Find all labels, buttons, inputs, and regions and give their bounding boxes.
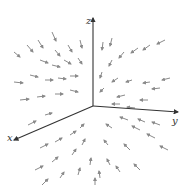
field-arrow <box>40 60 48 63</box>
field-arrow <box>120 117 128 120</box>
field-arrow <box>70 131 76 135</box>
field-arrow <box>124 144 130 150</box>
field-arrow <box>58 78 66 79</box>
field-arrow <box>119 52 124 58</box>
field-arrow <box>132 126 140 130</box>
field-arrow <box>82 139 85 145</box>
field-arrow <box>100 88 104 92</box>
field-arrow <box>127 107 135 108</box>
field-arrow <box>68 45 72 52</box>
vector-field-diagram: zyx <box>0 0 192 190</box>
field-arrow <box>143 82 150 83</box>
field-arrow <box>126 80 132 82</box>
field-arrow <box>14 82 23 83</box>
field-arrow <box>55 50 60 56</box>
z-axis-label: z <box>85 15 92 26</box>
field-arrow <box>106 124 112 128</box>
field-arrow <box>99 171 100 178</box>
field-arrow <box>37 96 45 97</box>
field-arrow <box>102 42 103 50</box>
field-arrow <box>72 149 76 155</box>
field-arrow <box>38 40 43 48</box>
field-arrow <box>147 134 155 138</box>
field-arrow <box>52 157 58 162</box>
field-arrow <box>112 78 118 82</box>
field-arrow <box>14 52 20 57</box>
field-arrow <box>117 95 125 97</box>
field-arrow <box>109 60 112 66</box>
field-arrow <box>78 58 82 64</box>
vector-field-plot: zyx <box>0 0 192 190</box>
field-arrow <box>60 172 64 178</box>
field-arrow <box>116 166 120 172</box>
field-arrow <box>100 72 102 78</box>
field-arrow <box>138 119 145 122</box>
field-arrow <box>30 75 38 77</box>
field-arrow <box>152 122 160 125</box>
field-arrow <box>28 121 36 125</box>
field-arrow <box>42 179 48 185</box>
field-arrow <box>70 90 78 92</box>
field-arrow <box>110 38 112 46</box>
field-arrow <box>45 113 52 115</box>
field-arrow <box>131 48 138 53</box>
field-arrow <box>80 40 82 48</box>
field-arrow <box>104 140 108 145</box>
field-arrows <box>14 32 170 185</box>
field-arrow <box>35 166 43 170</box>
field-arrow <box>64 60 71 64</box>
x-axis <box>14 106 93 140</box>
coordinate-axes <box>14 18 178 140</box>
field-arrow <box>20 99 29 100</box>
field-arrow <box>162 78 170 80</box>
field-arrow <box>152 88 160 89</box>
field-arrow <box>143 45 150 50</box>
field-arrow <box>40 144 48 148</box>
field-arrow <box>78 168 80 175</box>
field-arrow <box>52 65 60 67</box>
field-arrow <box>107 159 110 165</box>
field-arrow <box>134 164 140 170</box>
field-arrow <box>157 40 165 44</box>
field-arrow <box>52 32 56 41</box>
field-arrow <box>90 158 91 165</box>
y-axis <box>93 106 178 112</box>
field-arrow <box>27 45 33 52</box>
field-arrow <box>160 146 168 150</box>
x-axis-label: x <box>7 132 13 143</box>
y-axis-label: y <box>171 115 178 126</box>
field-arrow <box>55 138 62 142</box>
field-arrow <box>80 124 84 128</box>
